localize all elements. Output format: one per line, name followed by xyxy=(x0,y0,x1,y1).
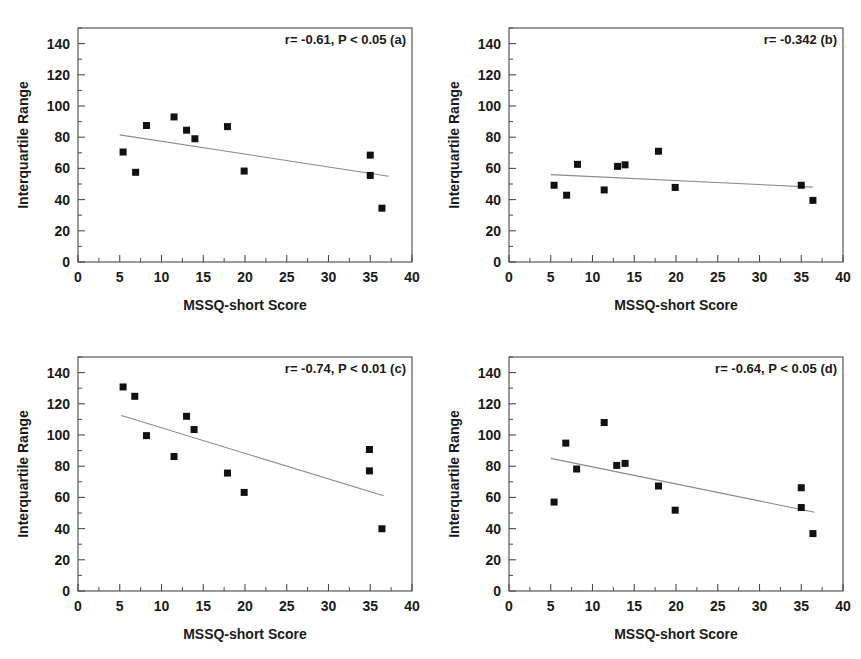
y-axis-title: Interquartile Range xyxy=(15,81,31,209)
data-point-marker xyxy=(809,197,816,204)
x-tick-label: 15 xyxy=(195,598,211,614)
data-point-marker xyxy=(672,184,679,191)
x-tick-label: 40 xyxy=(835,598,851,614)
x-axis-title: MSSQ-short Score xyxy=(614,626,738,642)
data-point-marker xyxy=(798,504,805,511)
data-point-marker xyxy=(551,499,558,506)
data-point-marker xyxy=(171,453,178,460)
x-tick-label: 40 xyxy=(835,269,851,285)
x-tick-label: 30 xyxy=(752,269,768,285)
plot-frame xyxy=(78,357,412,591)
x-tick-label: 10 xyxy=(154,598,170,614)
data-point-marker xyxy=(224,123,231,130)
data-point-marker xyxy=(366,467,373,474)
data-point-marker xyxy=(366,446,373,453)
x-tick-label: 15 xyxy=(626,269,642,285)
correlation-annotation: r= -0.342 (b) xyxy=(764,32,837,47)
data-point-marker xyxy=(132,169,139,176)
y-tick-label: 80 xyxy=(485,458,501,474)
data-point-marker xyxy=(183,127,190,134)
data-point-marker xyxy=(183,413,190,420)
x-tick-label: 25 xyxy=(710,269,726,285)
x-tick-label: 5 xyxy=(547,269,555,285)
x-tick-label: 15 xyxy=(626,598,642,614)
x-tick-label: 35 xyxy=(793,598,809,614)
x-tick-label: 20 xyxy=(668,269,684,285)
data-point-marker xyxy=(367,172,374,179)
y-tick-label: 120 xyxy=(478,67,502,83)
x-tick-label: 30 xyxy=(752,598,768,614)
x-tick-label: 20 xyxy=(668,598,684,614)
y-tick-label: 120 xyxy=(47,396,71,412)
x-tick-label: 10 xyxy=(585,269,601,285)
data-point-marker xyxy=(378,205,385,212)
x-axis-title: MSSQ-short Score xyxy=(183,626,307,642)
y-tick-label: 100 xyxy=(47,427,71,443)
x-tick-label: 5 xyxy=(116,269,124,285)
y-tick-label: 140 xyxy=(47,36,71,52)
data-point-marker xyxy=(367,152,374,159)
y-tick-label: 20 xyxy=(485,552,501,568)
x-tick-label: 25 xyxy=(279,269,295,285)
data-point-marker xyxy=(120,149,127,156)
data-point-marker xyxy=(622,161,629,168)
scatter-plot-b: 0510152025303540020406080100120140r= -0.… xyxy=(431,0,861,330)
data-point-marker xyxy=(574,161,581,168)
y-tick-label: 40 xyxy=(485,521,501,537)
data-point-marker xyxy=(655,483,662,490)
panel-c: 0510152025303540020406080100120140r= -0.… xyxy=(0,329,430,659)
data-point-marker xyxy=(562,440,569,447)
x-tick-label: 30 xyxy=(321,598,337,614)
data-point-marker xyxy=(798,484,805,491)
data-point-marker xyxy=(601,419,608,426)
regression-line xyxy=(120,135,389,176)
y-tick-label: 100 xyxy=(478,98,502,114)
y-tick-label: 0 xyxy=(493,254,501,270)
y-tick-label: 140 xyxy=(478,36,502,52)
data-point-marker xyxy=(171,113,178,120)
x-tick-label: 40 xyxy=(404,598,420,614)
y-tick-label: 20 xyxy=(54,223,70,239)
y-tick-label: 0 xyxy=(62,254,70,270)
x-tick-label: 35 xyxy=(362,269,378,285)
data-point-marker xyxy=(143,432,150,439)
x-tick-label: 25 xyxy=(279,598,295,614)
data-point-marker xyxy=(131,393,138,400)
regression-line xyxy=(551,175,813,187)
x-tick-label: 35 xyxy=(793,269,809,285)
data-point-marker xyxy=(798,182,805,189)
data-point-marker xyxy=(613,462,620,469)
panel-b: 0510152025303540020406080100120140r= -0.… xyxy=(431,0,861,330)
correlation-annotation: r= -0.64, P < 0.05 (d) xyxy=(715,361,837,376)
data-point-marker xyxy=(143,122,150,129)
regression-line xyxy=(551,458,815,512)
plot-frame xyxy=(78,28,412,262)
x-tick-label: 30 xyxy=(321,269,337,285)
y-tick-label: 40 xyxy=(54,192,70,208)
y-tick-label: 40 xyxy=(54,521,70,537)
y-tick-label: 20 xyxy=(485,223,501,239)
y-tick-label: 60 xyxy=(485,489,501,505)
y-tick-label: 60 xyxy=(54,489,70,505)
x-tick-label: 0 xyxy=(74,269,82,285)
figure-canvas: 0510152025303540020406080100120140r= -0.… xyxy=(0,0,861,659)
x-tick-label: 20 xyxy=(237,269,253,285)
y-axis-title: Interquartile Range xyxy=(446,81,462,209)
y-tick-label: 120 xyxy=(47,67,71,83)
x-tick-label: 10 xyxy=(585,598,601,614)
y-tick-label: 100 xyxy=(47,98,71,114)
correlation-annotation: r= -0.61, P < 0.05 (a) xyxy=(285,32,406,47)
scatter-plot-d: 0510152025303540020406080100120140r= -0.… xyxy=(431,329,861,659)
data-point-marker xyxy=(614,163,621,170)
y-tick-label: 0 xyxy=(62,583,70,599)
x-tick-label: 5 xyxy=(116,598,124,614)
plot-frame xyxy=(509,357,843,591)
y-tick-label: 40 xyxy=(485,192,501,208)
y-tick-label: 120 xyxy=(478,396,502,412)
y-tick-label: 140 xyxy=(478,365,502,381)
data-point-marker xyxy=(120,383,127,390)
y-tick-label: 80 xyxy=(485,129,501,145)
correlation-annotation: r= -0.74, P < 0.01 (c) xyxy=(285,361,406,376)
plot-frame xyxy=(509,28,843,262)
data-point-marker xyxy=(191,135,198,142)
